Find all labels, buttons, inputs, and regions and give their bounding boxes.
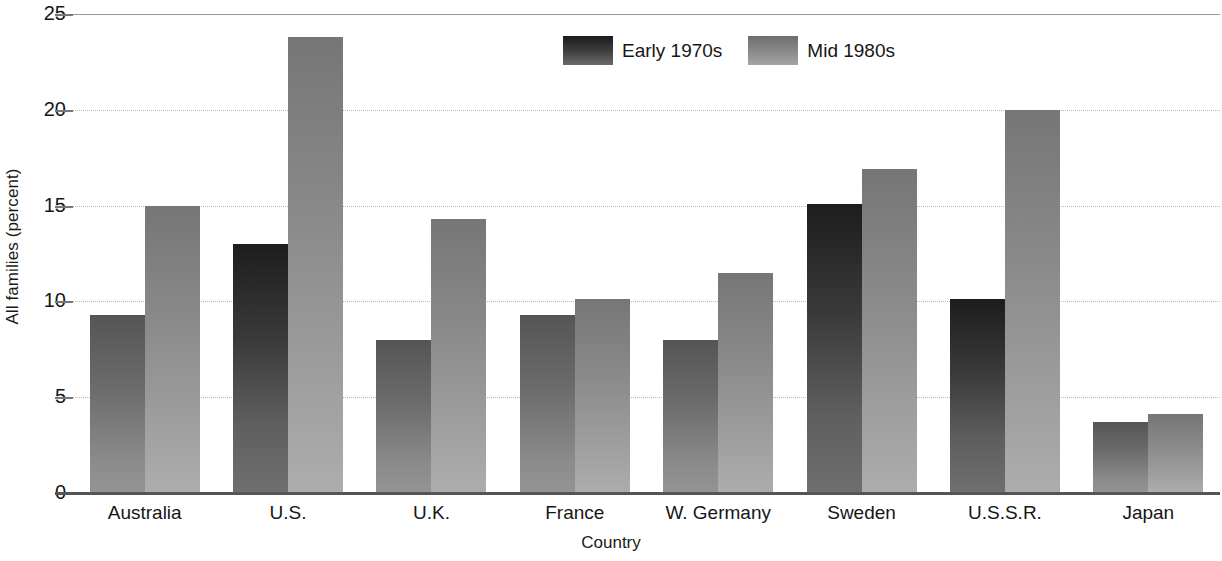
legend-item-label: Mid 1980s [807,40,895,62]
bar [950,299,1005,493]
gridline-25 [73,14,1220,15]
y-axis-tick-mark [55,301,73,303]
x-tick-label: U.K. [360,502,503,524]
legend-item-label: Early 1970s [622,40,722,62]
bar [90,315,145,493]
y-tick-label: 10 [30,290,66,310]
x-tick-label: Japan [1077,502,1220,524]
bar [233,244,288,493]
x-axis-line [55,492,1220,495]
bar [575,299,630,493]
y-axis-tick-labels: 0510152025 [26,0,66,561]
bar [288,37,343,493]
y-axis-title: All families (percent) [0,0,26,493]
y-axis-tick-mark [55,206,73,208]
y-tick-label: 20 [30,99,66,119]
x-tick-label: U.S.S.R. [933,502,1076,524]
bar [145,206,200,493]
plot-area [73,14,1220,493]
y-axis-tick-mark [55,397,73,399]
bar [1093,422,1148,493]
y-axis-tick-mark [55,110,73,112]
bar [807,204,862,493]
x-tick-label: U.S. [216,502,359,524]
x-tick-label: France [503,502,646,524]
legend-item[interactable]: Mid 1980s [748,36,895,65]
x-tick-label: Sweden [790,502,933,524]
bar [376,340,431,493]
bar [431,219,486,493]
y-tick-label: 15 [30,195,66,215]
bar [1005,110,1060,493]
x-tick-label: W. Germany [647,502,790,524]
y-axis-tick-mark [55,14,73,16]
x-axis-title: Country [0,533,1222,553]
legend-swatch-mid-1980s [748,36,798,65]
y-tick-label: 5 [30,386,66,406]
bar [520,315,575,493]
x-tick-label: Australia [73,502,216,524]
legend-swatch-early-1970s [563,36,613,65]
bar [718,273,773,493]
bar [1148,414,1203,493]
bar-chart: All families (percent) 0510152025 Austra… [0,0,1222,561]
legend-item[interactable]: Early 1970s [563,36,722,65]
y-tick-label: 25 [30,3,66,23]
bar [663,340,718,493]
chart-legend: Early 1970sMid 1980s [563,36,895,65]
bar [862,169,917,493]
